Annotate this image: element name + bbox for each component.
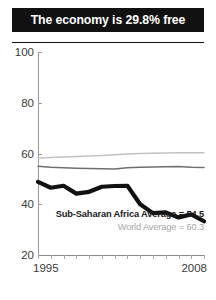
x-tick-label-2008: 2008	[181, 262, 207, 274]
x-tick-mark-2000	[102, 255, 103, 259]
chart-title-banner: The economy is 29.8% free	[12, 8, 204, 32]
y-tick-label-100: 100	[15, 46, 34, 58]
x-tick-mark-1999	[89, 255, 90, 259]
plot-wrapper: 100 80 60 40 20 1995 2008	[0, 40, 216, 300]
series-line-world-average	[38, 153, 204, 158]
x-tick-label-1995: 1995	[33, 262, 59, 274]
x-tick-mark-2007	[191, 255, 192, 259]
y-axis-labels: 100 80 60 40 20	[0, 40, 34, 300]
x-tick-mark-2004	[153, 255, 154, 259]
legend-regional-average-label: Sub-Saharan Africa Average = 54.5	[38, 208, 204, 221]
y-tick-label-60: 60	[21, 148, 34, 160]
chart-legend: Sub-Saharan Africa Average = 54.5 World …	[38, 208, 204, 234]
x-tick-mark-2002	[127, 255, 128, 259]
top-divider-rule	[12, 42, 204, 43]
x-tick-mark-2008	[204, 255, 205, 259]
x-tick-mark-1995	[38, 255, 39, 259]
x-tick-mark-1998	[76, 255, 77, 259]
x-tick-mark-1997	[64, 255, 65, 259]
x-tick-mark-1996	[51, 255, 52, 259]
x-tick-mark-2001	[115, 255, 116, 259]
y-tick-label-20: 20	[21, 249, 34, 261]
chart-card: The economy is 29.8% free 100 80 60 40 2…	[0, 0, 216, 300]
y-tick-label-80: 80	[21, 97, 34, 109]
series-line-regional-average	[38, 166, 204, 169]
x-tick-mark-2005	[166, 255, 167, 259]
y-tick-label-40: 40	[21, 198, 34, 210]
page-title: The economy is 29.8% free	[31, 13, 186, 27]
legend-world-average-label: World Average = 60.3	[38, 221, 204, 234]
x-tick-mark-2003	[140, 255, 141, 259]
x-tick-mark-2006	[179, 255, 180, 259]
